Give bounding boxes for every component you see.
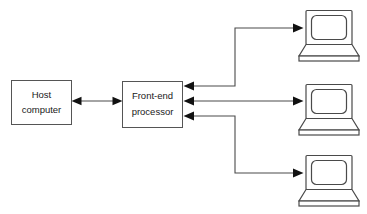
arrow-head-into-terminal-bottom bbox=[293, 169, 304, 178]
arrow-head-into-terminal-top bbox=[293, 24, 304, 33]
arrow-head-into-processor-middle bbox=[184, 97, 195, 106]
arrow-head-left-host bbox=[72, 97, 82, 105]
terminal-top-elbow-path bbox=[193, 28, 297, 86]
node-terminal-top[interactable] bbox=[299, 11, 359, 62]
laptop-base-middle bbox=[299, 119, 359, 131]
diagram-canvas: Host computer Front-end processor bbox=[0, 0, 367, 214]
laptop-foot-bottom bbox=[299, 201, 359, 206]
connection-processor-to-terminal-top bbox=[184, 24, 304, 91]
terminal-bottom-elbow-path bbox=[193, 116, 297, 173]
laptop-screen-middle bbox=[312, 90, 347, 114]
node-terminal-bottom[interactable] bbox=[299, 156, 359, 207]
arrow-head-into-terminal-middle bbox=[293, 97, 304, 106]
node-front-end-processor[interactable]: Front-end processor bbox=[123, 82, 183, 128]
host-computer-label-line1: Host bbox=[32, 89, 52, 100]
laptop-base-top bbox=[299, 45, 359, 57]
laptop-screen-bottom bbox=[312, 161, 347, 185]
connection-processor-to-terminal-bottom bbox=[184, 112, 304, 178]
laptop-base-bottom bbox=[299, 190, 359, 202]
connection-host-to-processor bbox=[72, 97, 123, 105]
connection-processor-to-terminal-middle bbox=[184, 97, 304, 106]
node-terminal-middle[interactable] bbox=[299, 85, 359, 136]
front-end-processor-label-line2: processor bbox=[132, 106, 174, 117]
node-host-computer[interactable]: Host computer bbox=[12, 81, 72, 125]
front-end-processor-label-line1: Front-end bbox=[132, 90, 173, 101]
arrow-head-into-processor-top bbox=[184, 82, 195, 91]
arrow-head-into-processor-bottom bbox=[184, 112, 195, 121]
laptop-icon-top bbox=[299, 11, 359, 62]
laptop-icon-middle bbox=[299, 85, 359, 136]
arrow-head-right-processor bbox=[113, 97, 123, 105]
laptop-foot-top bbox=[299, 56, 359, 61]
front-end-processor-box[interactable] bbox=[123, 82, 183, 128]
host-computer-label-line2: computer bbox=[22, 104, 62, 115]
network-diagram: Host computer Front-end processor bbox=[0, 0, 367, 214]
laptop-foot-middle bbox=[299, 130, 359, 135]
laptop-icon-bottom bbox=[299, 156, 359, 207]
host-computer-box[interactable] bbox=[12, 81, 72, 125]
laptop-screen-top bbox=[312, 16, 347, 40]
